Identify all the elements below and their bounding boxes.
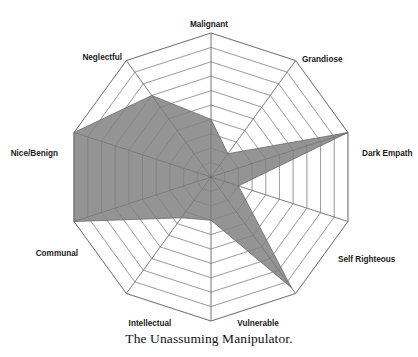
- axis-line-overlay: [211, 177, 296, 294]
- axis-label-grandiose: Grandiose: [302, 55, 343, 64]
- axis-label-communal: Communal: [36, 249, 78, 258]
- chart-caption: The Unassuming Manipulator.: [0, 331, 418, 347]
- radar-chart-canvas: Malignant Grandiose Dark Empath Self Rig…: [0, 0, 418, 357]
- radar-chart: Malignant Grandiose Dark Empath Self Rig…: [0, 0, 418, 357]
- axis-label-self-righteous: Self Righteous: [338, 255, 396, 264]
- axis-label-intellectual: Intellectual: [129, 319, 172, 328]
- axis-label-dark-empath: Dark Empath: [362, 149, 413, 158]
- axis-label-vulnerable: Vulnerable: [237, 319, 279, 328]
- axis-label-neglectful: Neglectful: [82, 53, 122, 62]
- axis-label-nice-benign: Nice/Benign: [11, 149, 58, 158]
- axis-label-malignant: Malignant: [190, 20, 228, 29]
- series-inner-rings: [74, 33, 348, 321]
